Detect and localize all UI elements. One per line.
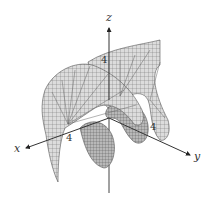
x-axis-label: x	[14, 142, 21, 155]
z-axis-label: z	[105, 11, 112, 24]
helix-surface-diagram: z 4 x 4 y 4	[0, 0, 208, 198]
y-axis-tick-4: 4	[150, 121, 156, 132]
y-axis-label: y	[193, 150, 201, 163]
z-axis-tick-4: 4	[101, 54, 107, 65]
x-axis-tick-4: 4	[66, 132, 72, 143]
